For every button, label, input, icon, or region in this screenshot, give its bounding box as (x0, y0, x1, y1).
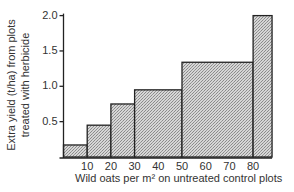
x-tick-label: 60 (194, 160, 218, 172)
x-tick-label: 20 (99, 160, 123, 172)
bar-80+ (253, 16, 272, 157)
histogram-chart: Extra yield (t/ha) from plots treated wi… (0, 0, 294, 192)
y-axis-label-line1: Extra yield (t/ha) from plots (5, 10, 18, 160)
y-tick-label: 2.0 (28, 9, 58, 21)
y-tick-label: 1.5 (28, 44, 58, 56)
x-tick-label: 10 (75, 160, 99, 172)
y-tick-label: 1.0 (28, 79, 58, 91)
bar-10-20 (87, 125, 111, 157)
x-tick-label: 30 (123, 160, 147, 172)
x-tick-label: 50 (170, 160, 194, 172)
bar-0-10 (64, 145, 88, 157)
x-axis-label: Wild oats per m² on untreated control pl… (75, 172, 282, 184)
x-tick-label: 70 (217, 160, 241, 172)
x-tick-label: 40 (146, 160, 170, 172)
bar-50-80 (182, 62, 253, 157)
y-tick-label: 0.5 (28, 115, 58, 127)
bars-group (64, 16, 273, 157)
bar-30-50 (135, 90, 182, 157)
x-tick-label: 80 (241, 160, 265, 172)
bar-20-30 (111, 104, 135, 157)
